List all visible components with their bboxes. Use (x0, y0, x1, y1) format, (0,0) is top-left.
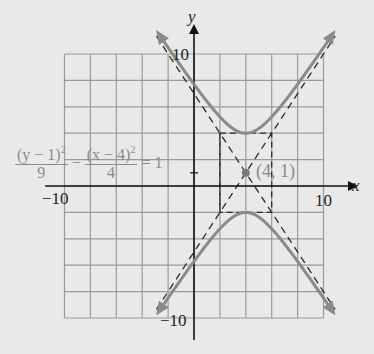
axes (45, 26, 356, 340)
center-point (242, 169, 250, 177)
tick-label-y-neg10: −10 (160, 312, 187, 329)
equation-equals: = (141, 154, 150, 172)
center-label: (4, 1) (256, 162, 295, 180)
term2-denominator: 4 (107, 165, 115, 182)
equation-operator: − (72, 154, 81, 172)
tick-label-x-10: 10 (315, 192, 332, 209)
term2-numerator: (x − 4) (87, 146, 131, 163)
term1-exponent: 2 (61, 144, 66, 155)
x-axis-label: x (352, 177, 360, 194)
tick-label-y-10: 10 (172, 46, 189, 63)
term1-numerator: (y − 1) (17, 146, 61, 163)
equation-term1: (y − 1)2 9 (15, 145, 68, 182)
equation-term2: (x − 4)2 4 (85, 145, 138, 182)
term1-denominator: 9 (37, 165, 45, 182)
term2-exponent: 2 (130, 144, 135, 155)
y-axis-label: y (188, 8, 196, 25)
equation-rhs: 1 (154, 154, 162, 172)
equation-label: (y − 1)2 9 − (x − 4)2 4 = 1 (15, 145, 162, 182)
tick-label-x-neg10: −10 (42, 190, 69, 207)
